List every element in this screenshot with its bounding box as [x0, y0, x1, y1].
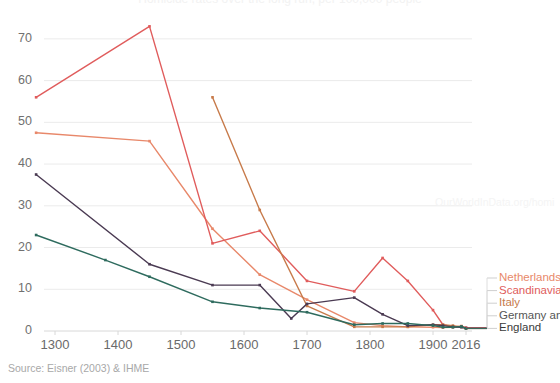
- series-point: [35, 96, 38, 99]
- series-point: [306, 311, 309, 314]
- series-point: [35, 234, 38, 237]
- series-point: [211, 242, 214, 245]
- y-axis-tick-label: 50: [4, 114, 32, 128]
- y-axis-tick-label: 60: [4, 73, 32, 87]
- series-point: [104, 259, 107, 262]
- legend-item-italy[interactable]: Italy: [499, 296, 520, 308]
- x-axis-tick-label: 1300: [41, 337, 70, 352]
- series-point: [353, 296, 356, 299]
- series-point: [306, 298, 309, 301]
- x-axis-tick-label: 1400: [104, 337, 133, 352]
- x-axis-tick-label: 1600: [230, 337, 259, 352]
- y-axis-tick-label: 20: [4, 240, 32, 254]
- x-axis-tick-label: 2016: [452, 337, 481, 352]
- series-point: [381, 257, 384, 260]
- series-point: [258, 307, 261, 310]
- chart-container: Homicide rates over the long run, per 10…: [0, 0, 560, 383]
- series-point: [35, 173, 38, 176]
- series-point: [381, 326, 384, 329]
- series-point: [258, 230, 261, 233]
- series-point: [258, 209, 261, 212]
- x-axis-tick-label: 1800: [356, 337, 385, 352]
- legend-connectors: [466, 278, 497, 328]
- series-point: [306, 303, 309, 306]
- legend-item-germany-an[interactable]: Germany an: [499, 309, 560, 321]
- series-point: [407, 280, 410, 283]
- series-line-4: [36, 235, 466, 328]
- series-point: [35, 131, 38, 134]
- series-point: [211, 96, 214, 99]
- series-line-2: [213, 97, 467, 328]
- series-point: [290, 317, 293, 320]
- series-line-0: [36, 133, 466, 328]
- series-point: [407, 322, 410, 325]
- series-point: [211, 227, 214, 230]
- legend-item-scandinavia[interactable]: Scandinavia: [499, 284, 560, 296]
- x-axis-tick-label: 1700: [293, 337, 322, 352]
- series-point: [148, 263, 151, 266]
- source-note: Source: Eisner (2003) & IHME: [8, 362, 149, 374]
- series-point: [148, 275, 151, 278]
- series-point: [258, 284, 261, 287]
- series-point: [353, 323, 356, 326]
- line-chart-plot: [0, 0, 560, 383]
- series-point: [353, 290, 356, 293]
- series-point: [211, 284, 214, 287]
- series-line-1: [36, 26, 466, 327]
- x-axis-tick-label: 1500: [167, 337, 196, 352]
- y-axis-tick-label: 40: [4, 156, 32, 170]
- series-point: [460, 325, 463, 328]
- series-point: [148, 140, 151, 143]
- series-point: [381, 322, 384, 325]
- legend-item-england[interactable]: England: [499, 321, 541, 333]
- x-axis-tick-label: 1900: [419, 337, 448, 352]
- gridlines: [44, 39, 472, 331]
- legend-item-netherlands[interactable]: Netherlands: [499, 271, 560, 283]
- y-axis-tick-label: 70: [4, 31, 32, 45]
- series-point: [432, 309, 435, 312]
- y-axis-tick-label: 10: [4, 281, 32, 295]
- series-point: [452, 326, 455, 329]
- watermark: OurWorldInData.org/homi: [435, 196, 554, 208]
- series-point: [258, 273, 261, 276]
- y-axis-tick-label: 30: [4, 198, 32, 212]
- x-axis-ticks: [55, 331, 466, 335]
- series-point: [306, 280, 309, 283]
- series-line-3: [36, 175, 466, 329]
- series-point: [381, 313, 384, 316]
- data-series-group: [35, 25, 468, 330]
- series-point: [148, 25, 151, 28]
- series-point: [211, 300, 214, 303]
- y-axis-tick-label: 0: [4, 323, 32, 337]
- series-point: [432, 324, 435, 327]
- series-point: [442, 326, 445, 329]
